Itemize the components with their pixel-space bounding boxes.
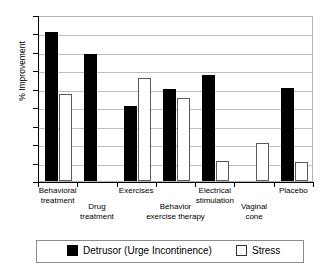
y-axis-line — [38, 16, 39, 183]
bar-detrusor — [281, 88, 294, 181]
bar-detrusor — [124, 106, 137, 181]
bar-stress — [59, 94, 72, 181]
category-label-line1: Placebo — [248, 186, 332, 196]
y-tick-mark — [33, 53, 38, 54]
category-label-line2: treatment — [52, 212, 142, 222]
bar-detrusor — [45, 32, 58, 181]
gridline — [39, 35, 312, 36]
x-axis-line — [38, 182, 314, 183]
y-tick-mark — [33, 164, 38, 165]
category-label-line1: Exercises — [91, 186, 181, 196]
legend-swatch-detrusor — [67, 245, 78, 256]
bar-stress — [256, 143, 269, 181]
category-label: Placebo — [248, 186, 332, 196]
legend-swatch-stress — [236, 245, 247, 256]
gridline — [39, 72, 312, 73]
y-tick-mark — [33, 34, 38, 35]
chart-legend: Detrusor (Urge Incontinence) Stress — [36, 240, 304, 263]
y-tick-mark — [33, 16, 38, 17]
y-tick-mark — [33, 145, 38, 146]
bar-stress — [138, 78, 151, 181]
category-label-line2: exercise therapy — [131, 212, 221, 222]
y-tick-mark — [33, 71, 38, 72]
category-label-line2: cone — [209, 212, 299, 222]
plot-area — [38, 16, 313, 182]
legend-label-detrusor: Detrusor (Urge Incontinence) — [83, 245, 212, 256]
category-label: Vaginalcone — [209, 202, 299, 221]
bar-detrusor — [163, 89, 176, 181]
category-label-line1: Vaginal — [209, 202, 299, 212]
bar-stress — [295, 162, 308, 181]
bar-chart-figure: % Improvement 0102030405060708090 Behavi… — [0, 0, 332, 275]
bar-detrusor — [202, 75, 215, 181]
y-tick-mark — [33, 90, 38, 91]
category-label-line1: Drug — [52, 202, 142, 212]
category-label: Drugtreatment — [52, 202, 142, 221]
gridline — [39, 54, 312, 55]
category-label-line1: Behavioral — [13, 186, 103, 196]
y-tick-mark — [33, 127, 38, 128]
y-axis-title: % Improvement — [17, 1, 27, 141]
legend-entry-detrusor: Detrusor (Urge Incontinence) — [67, 245, 212, 256]
legend-entry-stress: Stress — [236, 245, 280, 256]
legend-label-stress: Stress — [252, 245, 280, 256]
bar-stress — [177, 98, 190, 181]
y-tick-mark — [33, 108, 38, 109]
bar-detrusor — [84, 54, 97, 181]
category-label: Exercises — [91, 186, 181, 196]
bar-stress — [216, 161, 229, 181]
category-label-line1: Electrical — [170, 186, 260, 196]
